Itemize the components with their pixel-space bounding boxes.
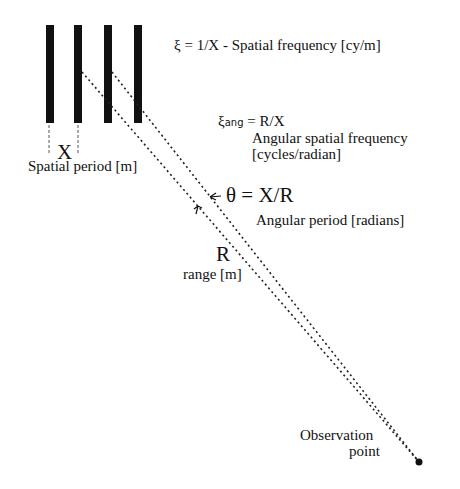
angle-arrows <box>194 193 221 214</box>
spatial-period-label: Spatial period [m] <box>28 158 137 175</box>
grating-bar <box>104 25 112 123</box>
angular-frequency-label: Angular spatial frequency <box>252 130 408 147</box>
arrow-up-icon <box>194 206 202 214</box>
grating-bars <box>46 25 142 123</box>
angular-frequency-formula: ξang = R/X <box>218 113 284 130</box>
spatial-frequency-label: ξ = 1/X - Spatial frequency [cy/m] <box>174 37 381 54</box>
angular-frequency-units: [cycles/radian] <box>252 146 341 163</box>
observation-point-dot <box>416 459 423 466</box>
ang-subscript: ang <box>225 117 244 128</box>
angular-period-label: Angular period [radians] <box>256 212 404 229</box>
range-symbol: R <box>216 242 230 267</box>
xi-ang-symbol: ξ <box>218 113 225 129</box>
xi-ang-formula: = R/X <box>244 113 285 129</box>
grating-bar <box>74 25 82 123</box>
grating-bar <box>46 25 54 123</box>
observation-label-line1: Observation <box>300 427 373 444</box>
xi-symbol: ξ <box>174 37 181 53</box>
observation-label-line2: point <box>349 443 380 460</box>
spatial-frequency-formula: = 1/X - Spatial frequency [cy/m] <box>181 37 381 53</box>
angular-period-formula: θ = X/R <box>226 183 293 208</box>
range-label: range [m] <box>183 266 242 283</box>
